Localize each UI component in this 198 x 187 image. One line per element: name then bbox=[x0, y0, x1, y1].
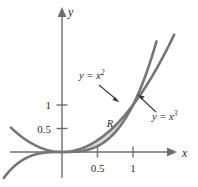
x-tick-label-1: 1 bbox=[130, 162, 136, 174]
x-tick-label-0.5: 0.5 bbox=[91, 162, 105, 174]
curve-label-x-cubed: y = x3 bbox=[151, 109, 178, 122]
chart-canvas: 0.5 1 0.5 1 x y y = x2 y = x3 R bbox=[0, 0, 198, 187]
y-axis-arrowhead bbox=[58, 7, 67, 17]
leader-line-x-cubed bbox=[140, 97, 156, 112]
figure-graph-region-between-curves: 0.5 1 0.5 1 x y y = x2 y = x3 R bbox=[0, 0, 198, 187]
y-tick-label-1: 1 bbox=[46, 99, 52, 111]
x-axis-arrowhead bbox=[167, 148, 177, 157]
x-axis-label: x bbox=[181, 146, 188, 160]
region-label-R: R bbox=[106, 118, 114, 129]
y-axis-label: y bbox=[67, 5, 74, 19]
curve-y-equals-x-squared bbox=[11, 35, 174, 152]
y-tick-label-0.5: 0.5 bbox=[37, 123, 51, 135]
curve-label-x-squared: y = x2 bbox=[78, 68, 105, 81]
